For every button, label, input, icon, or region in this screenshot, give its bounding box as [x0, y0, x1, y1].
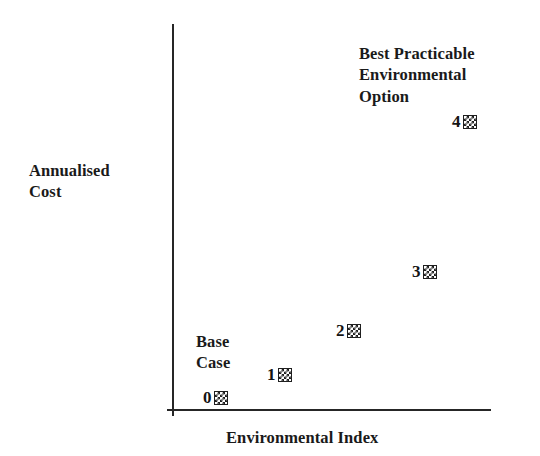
- x-axis-title: Environmental Index: [226, 427, 378, 448]
- checkerboard-marker-icon: [463, 115, 477, 129]
- checkerboard-marker-icon: [347, 324, 361, 338]
- annotation-best-practicable-environmental-option: Best Practicable Environmental Option: [359, 43, 535, 107]
- data-point-1[interactable]: 1: [267, 366, 292, 383]
- data-point-0[interactable]: 0: [203, 389, 228, 406]
- chart-canvas: Annualised Cost Environmental Index Best…: [0, 0, 540, 456]
- y-axis-line: [172, 24, 174, 416]
- data-point-2-label: 2: [336, 322, 345, 339]
- checkerboard-marker-icon: [423, 265, 437, 279]
- data-point-4-label: 4: [452, 113, 461, 130]
- data-point-2[interactable]: 2: [336, 322, 361, 339]
- x-axis-line: [167, 409, 491, 411]
- checkerboard-marker-icon: [214, 391, 228, 405]
- y-axis-title: Annualised Cost: [29, 160, 110, 203]
- data-point-3-label: 3: [412, 263, 421, 280]
- annotation-base-case: Base Case: [196, 331, 230, 374]
- data-point-1-label: 1: [267, 366, 276, 383]
- checkerboard-marker-icon: [278, 368, 292, 382]
- data-point-0-label: 0: [203, 389, 212, 406]
- data-point-4[interactable]: 4: [452, 113, 477, 130]
- data-point-3[interactable]: 3: [412, 263, 437, 280]
